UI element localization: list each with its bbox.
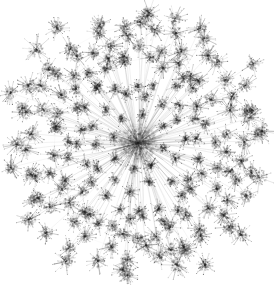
- figure-container: Dandelion-like radial network graph: one…: [0, 0, 274, 292]
- radial-network-graph: [0, 0, 274, 292]
